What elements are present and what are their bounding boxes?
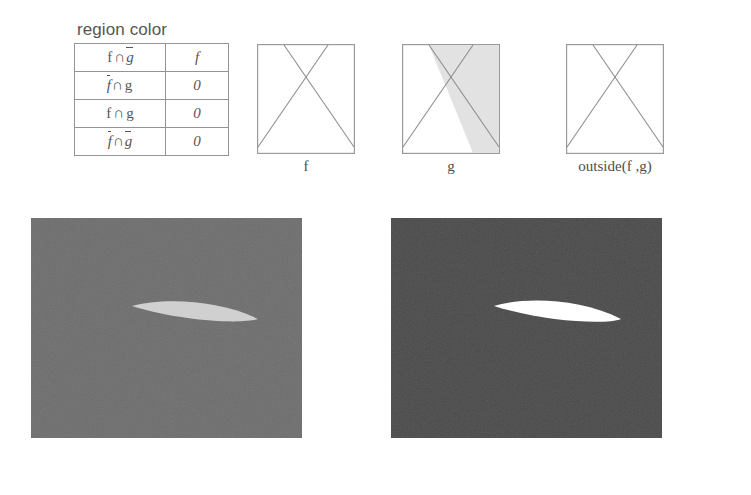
table-row: f∩g 0 [75, 72, 229, 100]
table-cell-region: f∩g [75, 72, 166, 100]
diagram-g: g [402, 44, 500, 154]
diagram-f-graphic [257, 44, 355, 154]
render-panel-right [391, 218, 662, 438]
diagram-outside-graphic [566, 44, 664, 154]
diagram-outside: outside(f ,g) [566, 44, 664, 154]
table-cell-region: f∩g [75, 128, 166, 156]
render-right-graphic [391, 218, 662, 438]
table-row: f∩g f [75, 44, 229, 72]
diagram-g-graphic [402, 44, 500, 154]
render-panel-left [31, 218, 302, 438]
table-cell-region: f∩g [75, 44, 166, 72]
diagram-f: f [257, 44, 355, 154]
table-cell-color: 0 [166, 128, 229, 156]
diagram-g-label: g [402, 158, 500, 175]
table-caption: region color [74, 20, 226, 43]
table-cell-color: 0 [166, 100, 229, 128]
table-cell-color: f [166, 44, 229, 72]
table-row: f∩g 0 [75, 128, 229, 156]
table-cell-region: f∩g [75, 100, 166, 128]
table-cell-color: 0 [166, 72, 229, 100]
diagram-f-label: f [257, 158, 355, 175]
diagram-outside-label: outside(f ,g) [544, 158, 686, 175]
table-row: f∩g 0 [75, 100, 229, 128]
region-color-table-block: region color f∩g f f∩g 0 f∩g 0 f∩g 0 [74, 20, 226, 156]
region-color-table: f∩g f f∩g 0 f∩g 0 f∩g 0 [74, 43, 229, 156]
render-left-graphic [31, 218, 302, 438]
